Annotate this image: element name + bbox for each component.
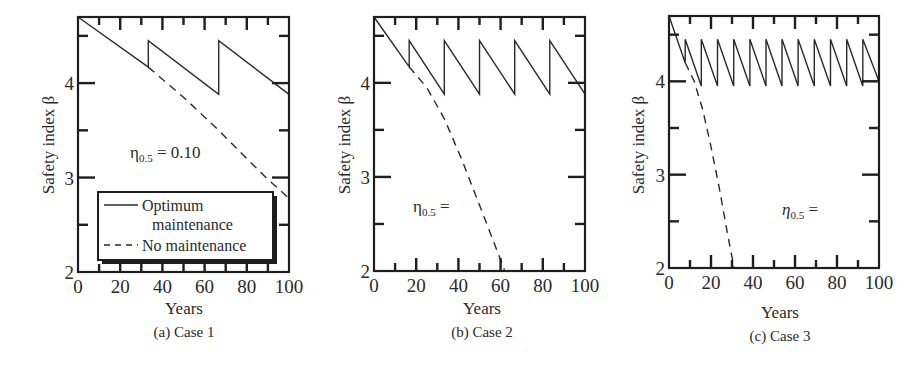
x-tick-label: 0: [369, 275, 379, 296]
x-tick-label: 40: [449, 275, 468, 296]
y-tick-label: 2: [65, 262, 75, 283]
panel-c: 020406080100234 Safety index β Years (c)…: [629, 16, 893, 345]
figure: 020406080100234 Safety index β Years (a)…: [0, 0, 924, 368]
plot-area-c: 020406080100234: [656, 16, 894, 293]
legend-label-optimum: Optimum: [142, 197, 204, 215]
x-tick-label: 100: [865, 272, 894, 293]
x-tick-label: 100: [275, 276, 304, 297]
x-tick-label: 60: [491, 275, 510, 296]
y-tick-label: 3: [65, 168, 75, 189]
x-tick-label: 40: [744, 272, 763, 293]
series-optimum-maintenance: [374, 17, 585, 94]
caption-b: (b) Case 2: [451, 324, 513, 341]
y-tick-label: 3: [656, 165, 666, 186]
y-axis-label-a: Safety index β: [39, 96, 58, 194]
caption-a: (a) Case 1: [154, 324, 215, 341]
x-axis-label-b: Years: [463, 299, 501, 318]
x-tick-label: 80: [237, 276, 256, 297]
y-tick-label: 4: [361, 73, 371, 94]
eta-annotation-b: η0.5 =: [413, 197, 449, 218]
x-tick-label: 0: [73, 276, 83, 297]
y-tick-label: 4: [65, 73, 75, 94]
caption-c: (c) Case 3: [750, 328, 811, 345]
x-tick-label: 40: [153, 276, 172, 297]
x-tick-label: 20: [111, 276, 130, 297]
y-axis-label-c: Safety index β: [629, 96, 648, 194]
panel-a: 020406080100234 Safety index β Years (a)…: [39, 17, 303, 341]
series-optimum-maintenance: [78, 17, 289, 94]
x-tick-label: 20: [702, 272, 721, 293]
x-axis-label-a: Years: [165, 299, 203, 318]
series-optimum-maintenance: [669, 16, 879, 86]
y-tick-label: 2: [361, 261, 371, 282]
legend-label-optimum-line2: maintenance: [152, 216, 233, 233]
x-tick-label: 0: [664, 272, 674, 293]
panel-b: 020406080100234 Safety index β Years (b)…: [335, 17, 599, 341]
eta-annotation-c: η0.5 =: [782, 200, 818, 221]
legend-label-no-maintenance: No maintenance: [142, 237, 246, 254]
y-axis-label-b: Safety index β: [335, 96, 354, 194]
series-no-maintenance: [685, 63, 734, 268]
x-tick-label: 60: [195, 276, 214, 297]
series-no-maintenance: [409, 67, 505, 271]
legend: Optimum maintenance No maintenance: [98, 192, 277, 264]
plot-frame: [669, 16, 879, 268]
y-tick-label: 3: [361, 167, 371, 188]
y-tick-label: 2: [656, 258, 666, 279]
y-tick-label: 4: [656, 71, 666, 92]
plot-area-b: 020406080100234: [361, 17, 600, 296]
x-axis-label-c: Years: [761, 303, 799, 322]
x-tick-label: 80: [828, 272, 847, 293]
x-tick-label: 100: [571, 275, 600, 296]
x-tick-label: 20: [407, 275, 426, 296]
x-tick-label: 60: [786, 272, 805, 293]
eta-annotation-a: η0.5 = 0.10: [130, 143, 200, 164]
x-tick-label: 80: [533, 275, 552, 296]
